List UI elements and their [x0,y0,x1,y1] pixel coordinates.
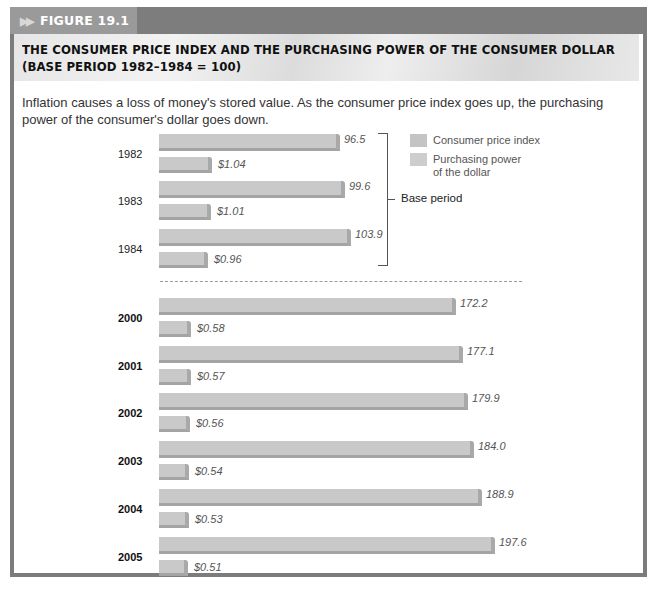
cpi-value-label: 99.6 [349,180,370,192]
purchasing-power-value-label: $0.58 [197,322,225,334]
legend-swatch-usd [410,153,427,166]
dashed-separator [160,281,522,282]
cpi-value-label: 172.2 [460,297,488,309]
purchasing-power-bar [159,464,189,480]
figure-tab: ▶▶FIGURE 19.1 [10,7,137,34]
purchasing-power-bar [159,321,191,337]
cpi-value-label: 179.9 [472,392,500,404]
purchasing-power-value-label: $0.53 [195,513,223,525]
title-band: THE CONSUMER PRICE INDEX AND THE PURCHAS… [14,34,639,81]
legend-label-usd-line2: of the dollar [433,166,490,179]
cpi-value-label: 188.9 [486,488,514,500]
year-label: 2000 [118,312,156,324]
figure-title-line2: (BASE PERIOD 1982–1984 = 100) [22,59,241,74]
purchasing-power-value-label: $0.57 [197,370,225,382]
year-label: 2004 [118,503,156,515]
cpi-bar [159,298,456,315]
purchasing-power-value-label: $0.96 [214,253,242,265]
cpi-bar [159,489,482,506]
purchasing-power-value-label: $1.04 [218,158,246,170]
purchasing-power-bar [159,204,211,220]
cpi-bar [159,229,351,246]
double-arrow-icon: ▶▶ [20,8,32,35]
purchasing-power-value-label: $1.01 [217,205,245,217]
year-label: 2005 [118,551,156,563]
purchasing-power-value-label: $0.51 [194,561,222,573]
base-period-label: Base period [401,192,462,204]
purchasing-power-bar [159,252,208,268]
cpi-bar [159,393,468,410]
figure-title-line1: THE CONSUMER PRICE INDEX AND THE PURCHAS… [22,42,615,57]
year-label: 2001 [118,360,156,372]
purchasing-power-bar [159,157,212,173]
purchasing-power-value-label: $0.56 [196,417,224,429]
cpi-value-label: 177.1 [467,345,495,357]
base-period-bracket [378,133,388,266]
legend-label-usd-line1: Purchasing power [433,153,521,166]
cpi-bar [159,346,463,363]
legend-label-cpi: Consumer price index [433,134,540,147]
cpi-value-label: 184.0 [478,440,506,452]
year-label: 2003 [118,455,156,467]
purchasing-power-bar [159,560,188,576]
cpi-value-label: 197.6 [499,536,527,548]
cpi-bar [159,181,345,198]
year-label: 1982 [118,148,156,160]
figure-caption: Inflation causes a loss of money's store… [22,94,632,128]
cpi-bar [159,441,474,458]
cpi-bar [159,134,340,151]
year-label: 2002 [118,407,156,419]
year-label: 1984 [118,243,156,255]
purchasing-power-bar [159,512,189,528]
cpi-bar [159,537,495,554]
year-label: 1983 [118,195,156,207]
cpi-value-label: 96.5 [344,133,365,145]
figure-number: FIGURE 19.1 [40,13,129,28]
purchasing-power-bar [159,369,191,385]
purchasing-power-value-label: $0.54 [195,465,223,477]
cpi-value-label: 103.9 [355,228,383,240]
legend-swatch-cpi [410,134,427,147]
base-period-tick [388,199,395,200]
purchasing-power-bar [159,416,190,432]
